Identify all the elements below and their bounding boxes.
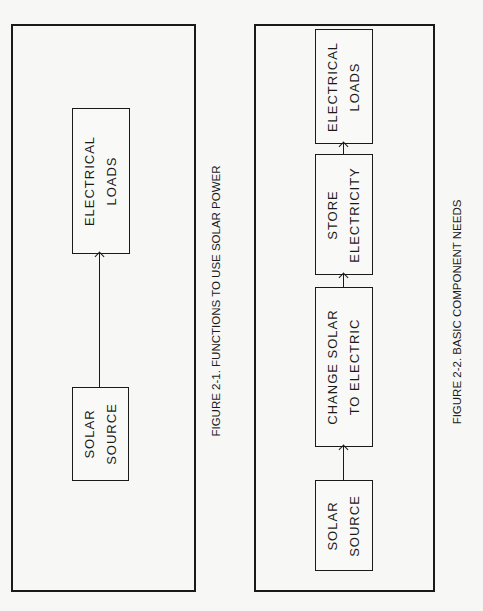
fig1-arrow-up-icon	[99, 254, 100, 387]
fig2-arrow-up-icon	[343, 447, 344, 480]
fig2-electrical-loads-box: ELECTRICAL LOADS	[315, 29, 373, 144]
box-label: ELECTRICAL LOADS	[322, 41, 366, 131]
box-label: ELECTRICAL LOADS	[79, 136, 123, 226]
figure-1-caption: FIGURE 2-1. FUNCTIONS TO USE SOLAR POWER	[210, 165, 222, 436]
fig1-solar-source-box: SOLAR SOURCE	[72, 387, 129, 481]
fig2-solar-source-box: SOLAR SOURCE	[315, 480, 373, 571]
box-label: CHANGE SOLAR TO ELECTRIC	[322, 309, 366, 424]
fig2-store-electricity-box: STORE ELECTRICITY	[315, 154, 373, 275]
figure-2-caption: FIGURE 2-2. BASIC COMPONENT NEEDS	[451, 200, 463, 425]
fig1-electrical-loads-box: ELECTRICAL LOADS	[72, 108, 130, 254]
box-label: SOLAR SOURCE	[79, 403, 123, 465]
box-label: SOLAR SOURCE	[322, 495, 366, 557]
fig2-change-solar-box: CHANGE SOLAR TO ELECTRIC	[315, 287, 373, 447]
box-label: STORE ELECTRICITY	[322, 167, 366, 263]
fig2-arrow-up-icon	[343, 275, 344, 287]
fig2-arrow-up-icon	[343, 144, 344, 154]
